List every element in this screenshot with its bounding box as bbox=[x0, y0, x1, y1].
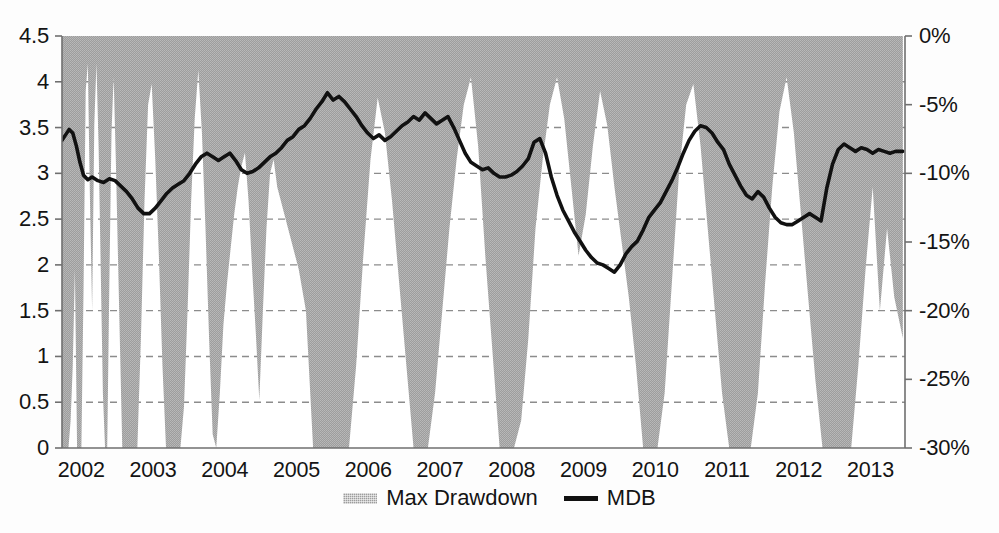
line-swatch-icon bbox=[564, 496, 598, 501]
x-axis-tick-label: 2011 bbox=[704, 459, 749, 481]
area-swatch-icon bbox=[343, 493, 377, 504]
x-axis-tick-label: 2007 bbox=[417, 459, 464, 481]
y-axis-right-tick-label: -20% bbox=[919, 300, 970, 322]
chart-container: 00.511.522.533.544.5 0%-5%-10%-15%-20%-2… bbox=[0, 0, 999, 533]
y-axis-right-tick-label: 0% bbox=[919, 25, 950, 47]
y-axis-left-tick-label: 1 bbox=[0, 345, 49, 367]
y-axis-right-tick-label: -25% bbox=[919, 368, 970, 390]
y-axis-right-tick-label: -30% bbox=[919, 437, 970, 459]
x-axis-tick-label: 2003 bbox=[130, 459, 177, 481]
y-axis-left-tick-label: 4.5 bbox=[0, 25, 49, 47]
y-axis-left-tick-label: 2.5 bbox=[0, 208, 49, 230]
legend-item-mdb[interactable]: MDB bbox=[564, 487, 656, 509]
y-axis-right-tick-label: -5% bbox=[919, 94, 958, 116]
x-axis-tick-label: 2013 bbox=[847, 459, 894, 481]
x-axis-tick-label: 2008 bbox=[488, 459, 535, 481]
legend-item-max-drawdown[interactable]: Max Drawdown bbox=[343, 487, 538, 509]
y-axis-right-tick-label: -15% bbox=[919, 231, 970, 253]
x-axis-tick-label: 2004 bbox=[201, 459, 248, 481]
y-axis-left-tick-label: 1.5 bbox=[0, 300, 49, 322]
legend-label-max-drawdown: Max Drawdown bbox=[386, 487, 538, 509]
y-axis-left-tick-label: 0 bbox=[0, 437, 49, 459]
x-axis-tick-label: 2010 bbox=[632, 459, 679, 481]
x-axis-tick-label: 2006 bbox=[345, 459, 392, 481]
y-axis-left-tick-label: 2 bbox=[0, 254, 49, 276]
y-axis-left-tick-label: 4 bbox=[0, 71, 49, 93]
y-axis-left-tick-label: 3 bbox=[0, 162, 49, 184]
legend-label-mdb: MDB bbox=[607, 487, 656, 509]
y-axis-right-tick-label: -10% bbox=[919, 162, 970, 184]
y-axis-left-tick-label: 0.5 bbox=[0, 391, 49, 413]
chart-plot-svg bbox=[0, 0, 999, 533]
y-axis-left-tick-label: 3.5 bbox=[0, 117, 49, 139]
x-axis-tick-label: 2002 bbox=[58, 459, 105, 481]
x-axis-tick-label: 2005 bbox=[273, 459, 320, 481]
x-axis-tick-label: 2009 bbox=[560, 459, 607, 481]
chart-legend: Max Drawdown MDB bbox=[0, 487, 999, 509]
x-axis-tick-label: 2012 bbox=[775, 459, 822, 481]
